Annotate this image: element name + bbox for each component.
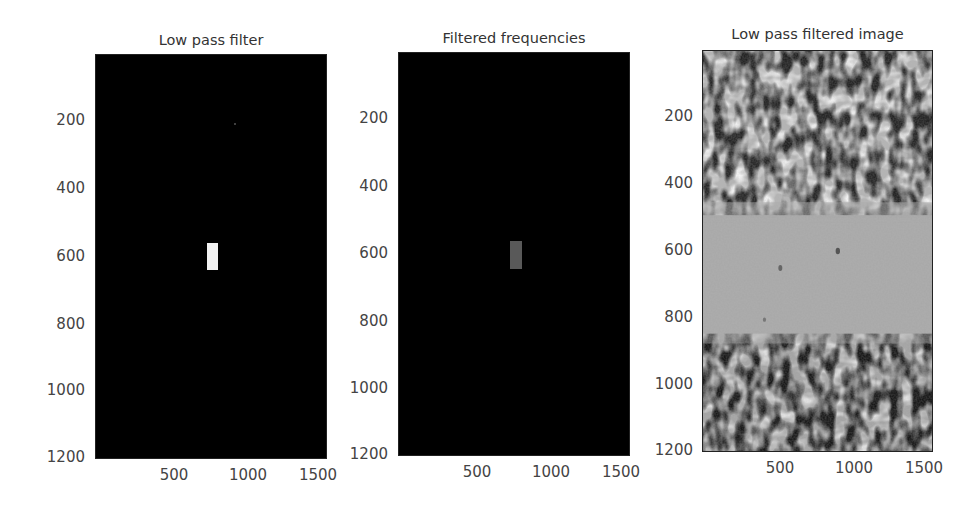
panel-title: Low pass filtered image [702, 26, 933, 42]
plot-area [702, 50, 933, 452]
y-tick-label: 600 [338, 244, 388, 262]
x-tick-label: 1500 [894, 459, 954, 477]
y-tick-label: 600 [35, 247, 85, 265]
panel-title: Filtered frequencies [398, 30, 630, 46]
y-tick-label: 800 [643, 308, 693, 326]
plot-area [398, 52, 630, 456]
plot-area [95, 54, 327, 459]
y-tick-label: 1200 [35, 448, 85, 466]
y-tick-label: 1000 [35, 381, 85, 399]
y-tick-label: 200 [35, 111, 85, 129]
y-tick-label: 800 [338, 312, 388, 330]
filtered-image [703, 51, 932, 451]
x-tick-label: 1000 [218, 466, 278, 484]
x-tick-label: 1000 [824, 459, 884, 477]
x-tick-label: 1500 [288, 466, 348, 484]
y-tick-label: 1000 [338, 379, 388, 397]
x-tick-label: 1500 [591, 463, 651, 481]
x-tick-label: 1000 [521, 463, 581, 481]
y-tick-label: 1200 [338, 445, 388, 463]
y-tick-label: 800 [35, 315, 85, 333]
pass-band-window [207, 243, 218, 270]
x-tick-label: 500 [750, 459, 810, 477]
y-tick-label: 600 [643, 241, 693, 259]
panel-title: Low pass filter [95, 32, 327, 48]
noise-speck [234, 123, 236, 125]
x-tick-label: 500 [447, 463, 507, 481]
y-tick-label: 400 [338, 177, 388, 195]
x-tick-label: 500 [144, 466, 204, 484]
y-tick-label: 200 [643, 107, 693, 125]
retained-frequency-block [510, 241, 522, 269]
y-tick-label: 1200 [643, 441, 693, 459]
y-tick-label: 1000 [643, 375, 693, 393]
y-tick-label: 400 [35, 179, 85, 197]
y-tick-label: 400 [643, 174, 693, 192]
y-tick-label: 200 [338, 109, 388, 127]
